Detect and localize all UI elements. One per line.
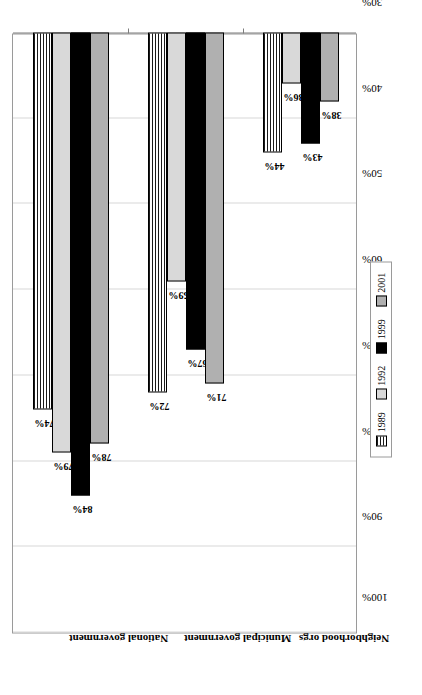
bar-row: 84% — [71, 32, 90, 632]
bar-value-label: 67% — [183, 354, 207, 373]
bar-value-label: 74% — [30, 414, 54, 433]
bar-1999[interactable] — [186, 32, 205, 349]
bar-chart: 74%79%84%78%72%59%67%71%44%36%43%38% 100… — [0, 0, 422, 695]
bar-row: 38% — [320, 32, 339, 632]
bar-1989[interactable] — [148, 32, 167, 392]
legend-item-2001[interactable]: 2001 — [376, 272, 387, 306]
plot-area: 74%79%84%78%72%59%67%71%44%36%43%38% — [12, 33, 357, 633]
category-label: Neighborhood orgs — [299, 633, 389, 645]
legend-swatch-icon — [376, 435, 387, 446]
bar-row: 72% — [148, 32, 167, 632]
bar-2001[interactable] — [205, 32, 224, 383]
legend-item-1989[interactable]: 1989 — [376, 412, 387, 446]
bar-row: 67% — [186, 32, 205, 632]
bar-1999[interactable] — [71, 32, 90, 495]
category-label: National government — [69, 633, 168, 645]
bar-value-label: 71% — [202, 388, 226, 407]
bar-row: 78% — [90, 32, 109, 632]
bar-row: 74% — [33, 32, 52, 632]
bar-value-label: 36% — [279, 88, 303, 107]
legend-label: 1999 — [376, 319, 387, 339]
value-axis-tick-label: 90% — [362, 511, 382, 523]
bar-1992[interactable] — [52, 32, 71, 452]
legend-item-1992[interactable]: 1992 — [376, 365, 387, 399]
bar-row: 36% — [282, 32, 301, 632]
bar-value-label: 84% — [68, 499, 92, 518]
bar-value-label: 59% — [164, 285, 188, 304]
value-axis-tick-label: 50% — [362, 168, 382, 180]
legend-swatch-icon — [376, 342, 387, 353]
bar-row: 71% — [205, 32, 224, 632]
value-axis-tick-label: 30% — [362, 0, 382, 9]
bar-value-label: 43% — [298, 148, 322, 167]
bar-2001[interactable] — [90, 32, 109, 443]
category-tick — [128, 28, 129, 33]
bar-row: 44% — [263, 32, 282, 632]
bar-1999[interactable] — [301, 32, 320, 143]
bar-row: 59% — [167, 32, 186, 632]
bar-1992[interactable] — [167, 32, 186, 281]
value-axis-tick-label: 100% — [362, 591, 388, 603]
bar-value-label: 79% — [49, 457, 73, 476]
bar-1989[interactable] — [33, 32, 52, 409]
legend-item-1999[interactable]: 1999 — [376, 319, 387, 353]
bar-value-label: 78% — [87, 448, 111, 467]
legend-label: 2001 — [376, 272, 387, 292]
category-tick — [243, 28, 244, 33]
chart-legend: 1989199219992001 — [370, 261, 392, 457]
bar-row: 79% — [52, 32, 71, 632]
legend-swatch-icon — [376, 388, 387, 399]
legend-label: 1992 — [376, 365, 387, 385]
rotated-chart-stage: 74%79%84%78%72%59%67%71%44%36%43%38% 100… — [0, 0, 422, 695]
legend-swatch-icon — [376, 295, 387, 306]
category-label: Municipal government — [184, 633, 291, 645]
bar-1992[interactable] — [282, 32, 301, 83]
bar-2001[interactable] — [320, 32, 339, 101]
value-axis-tick-label: 40% — [362, 83, 382, 95]
bar-value-label: 72% — [145, 397, 169, 416]
bar-value-label: 38% — [317, 105, 341, 124]
legend-label: 1989 — [376, 412, 387, 432]
category-axis-labels: National governmentMunicipal governmentN… — [12, 635, 357, 695]
bar-value-label: 44% — [260, 157, 284, 176]
